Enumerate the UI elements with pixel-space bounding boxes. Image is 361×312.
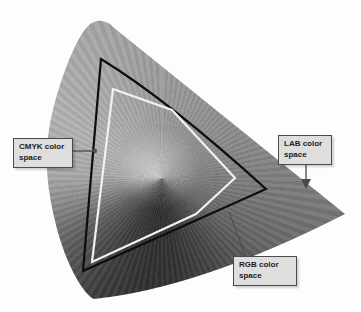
cmyk-label: CMYK color space — [13, 138, 73, 168]
rgb-leader-line — [229, 212, 246, 257]
lab-label: LAB color space — [278, 135, 332, 165]
color-space-diagram: CMYK color space LAB color space RGB col… — [0, 0, 361, 312]
rgb-gamut-outline — [83, 59, 266, 271]
cmyk-leader-dot — [93, 149, 97, 153]
arrowhead-down-icon — [301, 179, 311, 189]
rgb-label: RGB color space — [233, 256, 297, 286]
